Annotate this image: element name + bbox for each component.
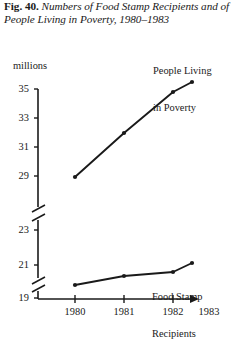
series-label-foodstamp-line2: Recipients <box>152 328 203 340</box>
series-label-foodstamp-line1: Food Stamp <box>152 291 203 303</box>
y-tick-label-23: 23 <box>9 224 29 235</box>
y-tick-label-29: 29 <box>9 170 29 181</box>
series-label-poverty-line2: in Poverty <box>153 102 212 114</box>
y-tick-label-33: 33 <box>9 112 29 123</box>
y-axis-break-upper <box>32 205 45 221</box>
series-label-foodstamp: Food Stamp Recipients <box>152 266 203 343</box>
y-tick-label-35: 35 <box>9 83 29 94</box>
x-tick-label-1980: 1980 <box>58 306 92 317</box>
series-label-poverty: People Living in Poverty <box>153 40 212 139</box>
y-axis-break-lower <box>32 277 45 292</box>
series-label-poverty-line1: People Living <box>153 65 212 77</box>
y-tick-label-19: 19 <box>9 292 29 303</box>
y-tick-label-31: 31 <box>9 141 29 152</box>
y-axis-unit-label: millions <box>13 60 47 71</box>
y-tick-label-21: 21 <box>9 259 29 270</box>
x-tick-label-1981: 1981 <box>107 306 141 317</box>
